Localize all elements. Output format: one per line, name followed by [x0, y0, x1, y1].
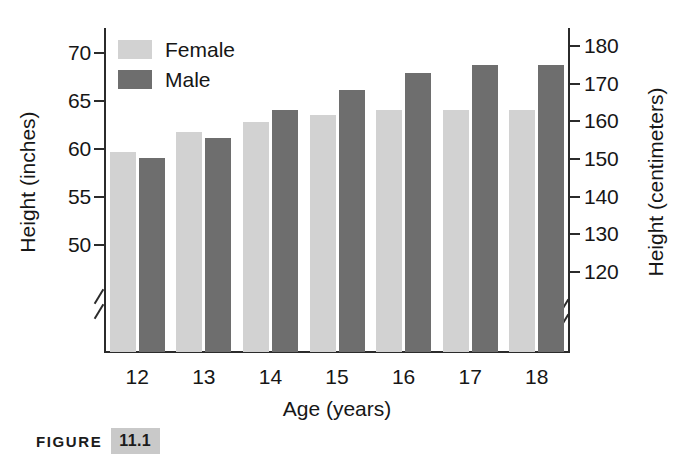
y2-tick-160 [569, 120, 580, 122]
x-ticklabel-14: 14 [240, 365, 300, 389]
x-ticklabel-15: 15 [307, 365, 367, 389]
y-axis-left-break-mark-upper [94, 289, 104, 305]
y2-tick-150 [569, 158, 580, 160]
y-ticklabel-55: 55 [47, 186, 91, 207]
figure-caption: FIGURE 11.1 [36, 428, 160, 454]
bar-male-age-14 [272, 110, 298, 352]
bar-male-age-15 [339, 90, 365, 352]
legend-label-male: Male [165, 69, 211, 90]
y2-ticklabel-130: 130 [584, 223, 618, 244]
bar-male-age-13 [205, 138, 231, 352]
y-axis-left-break-mark-lower [94, 304, 104, 320]
x-ticklabel-13: 13 [174, 365, 234, 389]
y2-tick-140 [569, 196, 580, 198]
y-ticklabel-50: 50 [47, 234, 91, 255]
legend-swatch-female-icon [118, 40, 152, 59]
y-axis-title-left: Height (inches) [16, 82, 40, 282]
bar-male-age-12 [139, 158, 165, 352]
y2-ticklabel-140: 140 [584, 186, 618, 207]
y2-ticklabel-150: 150 [584, 148, 618, 169]
y2-tick-130 [569, 233, 580, 235]
legend-label-female: Female [165, 39, 235, 60]
y2-ticklabel-160: 160 [584, 110, 618, 131]
y2-ticklabel-180: 180 [584, 35, 618, 56]
bar-female-age-12 [110, 152, 136, 352]
legend-swatch-male-icon [118, 70, 152, 89]
legend: Female Male [118, 36, 235, 96]
bar-female-age-13 [176, 132, 202, 352]
bar-female-age-14 [243, 122, 269, 352]
legend-item-female[interactable]: Female [118, 36, 235, 62]
legend-item-male[interactable]: Male [118, 66, 235, 92]
figure-container: 70 65 60 55 50 180 170 160 150 140 130 1… [0, 0, 687, 464]
bar-female-age-15 [310, 115, 336, 352]
figure-caption-number: 11.1 [111, 428, 160, 454]
figure-caption-word: FIGURE [36, 433, 102, 450]
y-axis-title-right: Height (centimeters) [644, 82, 668, 282]
bar-female-age-17 [443, 110, 469, 352]
y-ticklabel-65: 65 [47, 90, 91, 111]
y2-tick-170 [569, 83, 580, 85]
y2-ticklabel-120: 120 [584, 261, 618, 282]
bar-male-age-16 [405, 73, 431, 352]
bar-female-age-16 [376, 110, 402, 352]
x-ticklabel-16: 16 [374, 365, 434, 389]
x-ticklabel-12: 12 [107, 365, 167, 389]
bar-female-age-18 [509, 110, 535, 352]
x-ticklabel-18: 18 [507, 365, 567, 389]
y-ticklabel-60: 60 [47, 138, 91, 159]
y2-ticklabel-170: 170 [584, 73, 618, 94]
bar-male-age-17 [472, 65, 498, 352]
y2-tick-180 [569, 45, 580, 47]
y-ticklabel-70: 70 [47, 42, 91, 63]
x-ticklabel-17: 17 [440, 365, 500, 389]
bar-male-age-18 [538, 65, 564, 352]
x-axis-title: Age (years) [104, 397, 570, 421]
y2-tick-120 [569, 271, 580, 273]
